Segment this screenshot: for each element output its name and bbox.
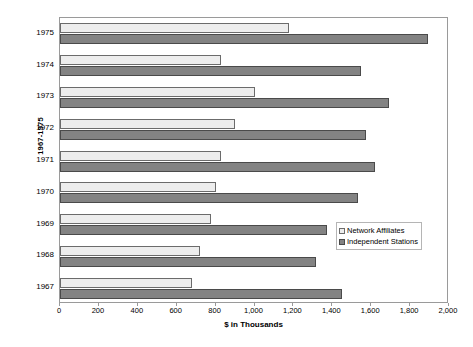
legend-item-network-affiliates: Network Affiliates xyxy=(339,225,418,236)
y-axis-tick-label: 1967 xyxy=(16,282,54,291)
bar-1972-series-1 xyxy=(60,130,366,140)
plot-area xyxy=(59,17,448,303)
y-axis-tick-label: 1971 xyxy=(16,155,54,164)
x-axis-tick-label: 1,200 xyxy=(283,306,302,316)
x-axis-tick-label: 800 xyxy=(208,306,221,316)
y-axis-tick-labels: 197519741973197219711970196919681967 xyxy=(16,17,54,303)
legend-swatch-icon-independent-stations xyxy=(339,239,345,245)
bar-1973-series-1 xyxy=(60,98,389,108)
y-axis-tick-label: 1975 xyxy=(16,28,54,37)
x-axis-tick-label: 1,600 xyxy=(361,306,380,316)
bar-1969-series-0 xyxy=(60,214,211,224)
x-axis-tick-label: 200 xyxy=(92,306,105,316)
bar-1970-series-1 xyxy=(60,193,358,203)
bar-1974-series-0 xyxy=(60,55,221,65)
legend-label-independent-stations: Independent Stations xyxy=(347,237,418,246)
x-axis-title: $ in Thousands xyxy=(59,320,448,329)
x-axis-tick-label: 400 xyxy=(131,306,144,316)
legend-label-network-affiliates: Network Affiliates xyxy=(347,226,404,235)
bar-1971-series-0 xyxy=(60,151,221,161)
bar-1974-series-1 xyxy=(60,66,361,76)
bar-chart: 1967-1975 197519741973197219711970196919… xyxy=(0,0,473,347)
y-axis-tick-label: 1969 xyxy=(16,219,54,228)
bar-1967-series-0 xyxy=(60,278,192,288)
bar-1968-series-0 xyxy=(60,246,200,256)
bar-1973-series-0 xyxy=(60,87,255,97)
chart-legend: Network Affiliates Independent Stations xyxy=(336,222,422,250)
bar-1968-series-1 xyxy=(60,257,316,267)
bar-1975-series-1 xyxy=(60,34,428,44)
x-axis-tick-label: 1,800 xyxy=(400,306,419,316)
y-axis-tick-label: 1972 xyxy=(16,123,54,132)
x-axis-tick-label: 1,000 xyxy=(244,306,263,316)
bar-1969-series-1 xyxy=(60,225,327,235)
x-axis-tick-label: 1,400 xyxy=(322,306,341,316)
bar-1972-series-0 xyxy=(60,119,235,129)
bar-1970-series-0 xyxy=(60,182,216,192)
x-axis-tick-label: 0 xyxy=(57,306,61,316)
x-axis-tick-label: 2,000 xyxy=(439,306,458,316)
y-axis-tick-label: 1974 xyxy=(16,60,54,69)
y-axis-tick-label: 1968 xyxy=(16,250,54,259)
y-axis-tick-label: 1970 xyxy=(16,187,54,196)
bar-1971-series-1 xyxy=(60,162,375,172)
bar-1975-series-0 xyxy=(60,23,289,33)
x-axis-tick-labels: 02004006008001,0001,2001,4001,6001,8002,… xyxy=(59,306,448,318)
bar-1967-series-1 xyxy=(60,289,342,299)
x-axis-tick-label: 600 xyxy=(169,306,182,316)
legend-swatch-icon-network-affiliates xyxy=(339,228,345,234)
legend-item-independent-stations: Independent Stations xyxy=(339,236,418,247)
y-axis-tick-label: 1973 xyxy=(16,91,54,100)
